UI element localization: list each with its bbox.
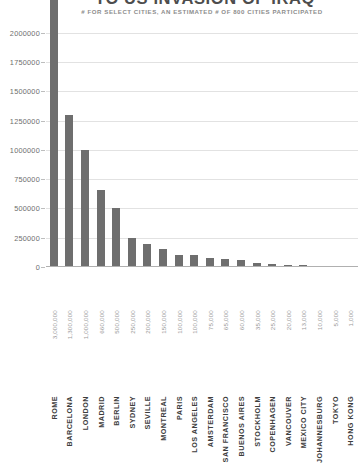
x-axis-column: 1,000,000LONDON xyxy=(77,268,93,398)
x-axis-category-label: BERLIN xyxy=(112,396,121,426)
bar xyxy=(50,0,58,267)
x-axis-value-label: 35,000 xyxy=(253,310,260,330)
chart-title: TO US INVASION OF IRAQ xyxy=(46,0,364,8)
y-axis-tick-label: 500000 xyxy=(0,204,40,213)
x-axis-category-label: SEVILLE xyxy=(143,396,152,429)
x-axis-category-label: ROME xyxy=(49,396,58,420)
x-axis-category-label: MEXICO CITY xyxy=(299,396,308,448)
plot-area xyxy=(46,21,358,267)
y-axis-tick-label: 1000000 xyxy=(0,145,40,154)
x-axis-value-label: 1,000 xyxy=(347,310,354,326)
x-axis-category-label: COPENHAGEN xyxy=(268,396,277,453)
x-axis-column: 20,000VANCOUVER xyxy=(280,268,296,398)
x-axis-category-label: MONTREAL xyxy=(158,396,167,441)
x-axis-column: 100,000PARIS xyxy=(171,268,187,398)
x-axis-column: 3,000,000ROME xyxy=(46,268,62,398)
x-axis-value-label: 10,000 xyxy=(315,310,322,330)
y-axis-tick-mark xyxy=(41,238,45,239)
x-axis-category-label: MADRID xyxy=(96,396,105,428)
x-axis-category-label: HONG KONG xyxy=(346,396,355,446)
x-axis-value-label: 150,000 xyxy=(159,310,166,334)
y-axis-tick-mark xyxy=(41,33,45,34)
bars-group xyxy=(46,21,358,267)
x-axis-value-label: 20,000 xyxy=(284,310,291,330)
x-axis-value-label: 25,000 xyxy=(269,310,276,330)
x-axis-column: 5,000TOKYO xyxy=(327,268,343,398)
x-axis-category-label: BARCELONA xyxy=(65,396,74,446)
y-axis-tick-mark xyxy=(41,179,45,180)
x-axis-value-label: 1,000,000 xyxy=(81,310,88,339)
x-axis-column: 60,000BUENOS AIRES xyxy=(233,268,249,398)
x-axis-category-label: JOHANNESBURG xyxy=(314,396,323,463)
x-axis-column: 35,000STOCKHOLM xyxy=(249,268,265,398)
bar xyxy=(112,208,120,267)
y-axis-tick-label: 0 xyxy=(0,263,40,272)
bar xyxy=(65,115,73,267)
x-axis-category-label: SYDNEY xyxy=(127,396,136,429)
y-axis-tick-mark xyxy=(41,121,45,122)
x-axis-column: 1,300,000BARCELONA xyxy=(62,268,78,398)
x-axis-column: 200,000SEVILLE xyxy=(140,268,156,398)
x-axis-column: 100,000LOS ANGELES xyxy=(186,268,202,398)
y-axis-tick-mark xyxy=(41,208,45,209)
x-axis-category-label: LONDON xyxy=(80,396,89,430)
x-axis-value-label: 200,000 xyxy=(144,310,151,334)
bar xyxy=(97,190,105,267)
x-axis-value-label: 3,000,000 xyxy=(50,310,57,339)
x-axis-value-label: 1,300,000 xyxy=(66,310,73,339)
chart-subtitle: # FOR SELECT CITIES, AN ESTIMATED # OF 8… xyxy=(46,8,358,15)
x-axis-baseline xyxy=(46,266,358,267)
x-axis-value-label: 100,000 xyxy=(175,310,182,334)
x-axis-labels: 3,000,000ROME1,300,000BARCELONA1,000,000… xyxy=(46,268,358,398)
x-axis-column: 250,000SYDNEY xyxy=(124,268,140,398)
bar xyxy=(81,150,89,267)
x-axis-value-label: 5,000 xyxy=(331,310,338,326)
x-axis-category-label: LOS ANGELES xyxy=(190,396,199,453)
x-axis-column: 13,000MEXICO CITY xyxy=(296,268,312,398)
bar xyxy=(128,238,136,267)
y-axis-tick-mark xyxy=(41,150,45,151)
y-axis-tick-mark xyxy=(41,267,45,268)
y-axis-tick-label: 1750000 xyxy=(0,58,40,67)
bar xyxy=(159,249,167,267)
x-axis-value-label: 500,000 xyxy=(113,310,120,334)
x-axis-category-label: SAN FRANCISCO xyxy=(221,396,230,462)
bar xyxy=(143,244,151,267)
x-axis-column: 65,000SAN FRANCISCO xyxy=(218,268,234,398)
x-axis-category-label: PARIS xyxy=(174,396,183,420)
x-axis-category-label: BUENOS AIRES xyxy=(236,396,245,456)
y-axis-tick-label: 250000 xyxy=(0,233,40,242)
y-axis-tick-label: 750000 xyxy=(0,175,40,184)
x-axis-column: 75,000AMSTERDAM xyxy=(202,268,218,398)
x-axis-value-label: 75,000 xyxy=(206,310,213,330)
x-axis-category-label: STOCKHOLM xyxy=(252,396,261,447)
x-axis-category-label: AMSTERDAM xyxy=(205,396,214,447)
y-axis-tick-mark xyxy=(41,62,45,63)
x-axis-column: 500,000BERLIN xyxy=(108,268,124,398)
y-axis-tick-label: 2000000 xyxy=(0,28,40,37)
x-axis-value-label: 250,000 xyxy=(128,310,135,334)
x-axis-column: 10,000JOHANNESBURG xyxy=(311,268,327,398)
y-axis-tick-label: 1500000 xyxy=(0,87,40,96)
x-axis-column: 150,000MONTREAL xyxy=(155,268,171,398)
y-axis-tick-label: 1250000 xyxy=(0,116,40,125)
x-axis-value-label: 60,000 xyxy=(237,310,244,330)
x-axis-value-label: 660,000 xyxy=(97,310,104,334)
x-axis-value-label: 65,000 xyxy=(222,310,229,330)
x-axis-category-label: TOKYO xyxy=(330,396,339,424)
x-axis-value-label: 13,000 xyxy=(300,310,307,330)
x-axis-value-label: 100,000 xyxy=(191,310,198,334)
x-axis-column: 25,000COPENHAGEN xyxy=(264,268,280,398)
x-axis-column: 660,000MADRID xyxy=(93,268,109,398)
x-axis-column: 1,000HONG KONG xyxy=(342,268,358,398)
y-axis-tick-mark xyxy=(41,91,45,92)
x-axis-category-label: VANCOUVER xyxy=(283,396,292,446)
